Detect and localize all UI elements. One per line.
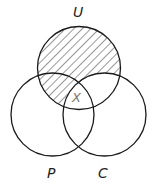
label-p: P — [47, 165, 56, 181]
label-c: C — [98, 165, 108, 181]
label-x: X — [71, 90, 82, 105]
label-u: U — [73, 4, 83, 20]
shaded-region — [0, 0, 162, 183]
venn-diagram: U X P C — [0, 0, 162, 183]
